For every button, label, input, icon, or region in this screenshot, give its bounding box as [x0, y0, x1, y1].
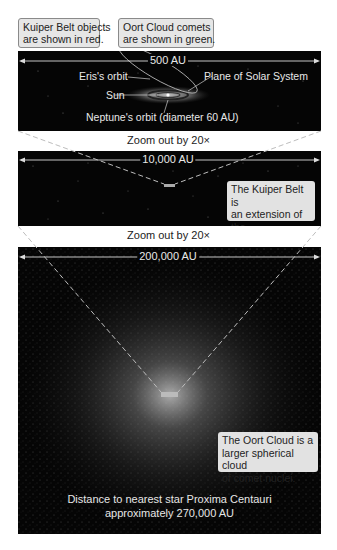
oort-note-line2: larger spherical cloud	[222, 447, 314, 472]
kuiper-note-line1: The Kuiper Belt is	[231, 183, 311, 208]
sun-label: Sun	[106, 89, 125, 101]
oort-cloud-panel: 200,000 AU The Oort Cloud is a larger sp…	[18, 247, 321, 534]
kuiper-belt-note: The Kuiper Belt is an extension of the S…	[227, 181, 315, 221]
footer-line2: approximately 270,000 AU	[18, 506, 321, 520]
eris-orbit-label: Eris's orbit	[79, 70, 128, 82]
kuiper-legend-line1: Kuiper Belt objects	[23, 21, 95, 33]
footer-line1: Distance to nearest star Proxima Centaur…	[18, 492, 321, 506]
oort-cloud-graphic	[18, 247, 321, 534]
scale-label-200000au: 200,000 AU	[137, 250, 199, 262]
zoom-caption-2: Zoom out by 20×	[0, 229, 337, 241]
oort-note-line1: The Oort Cloud is a	[222, 434, 314, 447]
kuiper-legend-line2: are shown in red.	[23, 33, 95, 45]
kuiper-belt-panel: 10,000 AU The Kuiper Belt is an extensio…	[18, 151, 321, 226]
kuiper-note-line2: an extension of the	[231, 208, 311, 226]
oort-legend-note: Oort Cloud comets are shown in green.	[118, 18, 214, 48]
kuiper-legend-note: Kuiper Belt objects are shown in red.	[18, 18, 100, 48]
oort-cloud-note: The Oort Cloud is a larger spherical clo…	[218, 432, 318, 472]
neptune-orbit-label: Neptune's orbit (diameter 60 AU)	[86, 111, 239, 123]
solar-system-panel: 500 AU Eris's orbit Plane of Solar Syste…	[18, 51, 321, 131]
scale-label-10000au: 10,000 AU	[140, 153, 195, 165]
plane-label: Plane of Solar System	[204, 70, 308, 82]
zoom-caption-1: Zoom out by 20×	[0, 134, 337, 146]
oort-legend-line2: are shown in green.	[123, 33, 209, 45]
oort-legend-line1: Oort Cloud comets	[123, 21, 209, 33]
scale-label-500au: 500 AU	[148, 54, 188, 66]
proxima-centauri-note: Distance to nearest star Proxima Centaur…	[18, 492, 321, 520]
oort-note-line3: of comet nuclei.	[222, 472, 314, 485]
